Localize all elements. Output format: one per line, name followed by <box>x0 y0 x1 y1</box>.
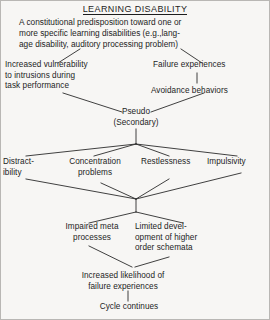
learning-disability-flowchart: LEARNING DISABILITY A constitutional pre… <box>0 0 270 320</box>
node-increased-vulnerability: Increased vulnerability to intrusions du… <box>5 60 121 92</box>
page-title: LEARNING DISABILITY <box>1 4 269 14</box>
connector-distractibility-to-hub <box>26 179 136 199</box>
connector-concentration-to-hub <box>101 183 136 199</box>
node-avoidance-behaviors: Avoidance behaviors <box>151 86 269 97</box>
connector-limited-development-to-increased <box>135 257 169 267</box>
page-title-text: LEARNING DISABILITY <box>83 4 188 15</box>
node-distractibility: Distract- ibility <box>3 157 55 178</box>
node-restlessness: Restlessness <box>141 157 203 168</box>
node-concentration-problems: Concentration problems <box>57 157 133 178</box>
connector-restlessness-to-hub <box>136 179 169 199</box>
node-cycle-continues: Cycle continues <box>71 302 187 313</box>
lead-statement: A constitutional predisposition toward o… <box>19 17 253 50</box>
connector-pseudo-to-concentration <box>94 144 136 156</box>
node-pseudo-secondary: Pseudo (Secondary) <box>93 107 179 128</box>
node-increased-likelihood: Increased likelihood of failure experien… <box>53 271 193 292</box>
connector-pseudo-to-restlessness <box>136 144 169 156</box>
connector-pseudo-to-distractibility <box>26 144 136 156</box>
connector-pseudo-to-impulsivity <box>136 144 237 156</box>
node-impulsivity: Impulsivity <box>207 157 269 168</box>
node-impaired-meta-processes: Impaired meta processes <box>53 222 131 243</box>
connector-impaired-meta-to-increased <box>89 246 132 267</box>
node-limited-development: Limited devel- opment of higher order sc… <box>135 222 219 254</box>
node-failure-experiences: Failure experiences <box>153 60 267 71</box>
connector-impulsivity-to-hub <box>136 173 241 199</box>
